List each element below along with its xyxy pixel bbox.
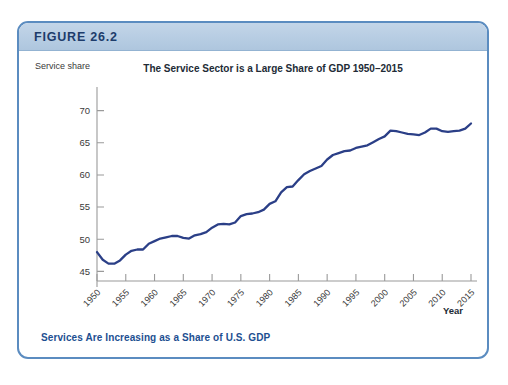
x-tick-label: 1980 bbox=[254, 287, 275, 308]
x-tick-label: 2000 bbox=[369, 287, 390, 308]
x-tick-label: 1960 bbox=[139, 287, 160, 308]
chart-plot-area: Service share The Service Sector is a La… bbox=[19, 51, 487, 319]
x-tick-label: 1975 bbox=[225, 287, 246, 308]
line-chart-svg: 4550556065701950195519601965197019751980… bbox=[19, 51, 489, 319]
figure-caption: Services Are Increasing as a Share of U.… bbox=[41, 332, 270, 343]
x-tick-label: 1955 bbox=[110, 287, 131, 308]
y-tick-label: 55 bbox=[79, 201, 90, 212]
figure-card: FIGURE 26.2 Service share The Service Se… bbox=[17, 21, 489, 359]
x-tick-label: 1985 bbox=[283, 287, 304, 308]
x-axis-title: Year bbox=[443, 305, 463, 316]
x-tick-label: 1990 bbox=[311, 287, 332, 308]
x-tick-label: 2005 bbox=[398, 287, 419, 308]
figure-number-label: FIGURE 26.2 bbox=[34, 30, 118, 44]
x-tick-label: 1965 bbox=[167, 287, 188, 308]
y-tick-label: 65 bbox=[79, 137, 90, 148]
x-tick-label: 1970 bbox=[196, 287, 217, 308]
figure-header: FIGURE 26.2 bbox=[19, 23, 487, 51]
y-tick-label: 50 bbox=[79, 234, 90, 245]
data-series-line bbox=[97, 124, 471, 264]
x-tick-label: 1950 bbox=[81, 287, 102, 308]
y-tick-label: 70 bbox=[79, 105, 90, 116]
y-tick-label: 60 bbox=[79, 169, 90, 180]
x-tick-label: 1995 bbox=[340, 287, 361, 308]
figure-caption-area: Services Are Increasing as a Share of U.… bbox=[19, 317, 487, 357]
y-tick-label: 45 bbox=[79, 266, 90, 277]
